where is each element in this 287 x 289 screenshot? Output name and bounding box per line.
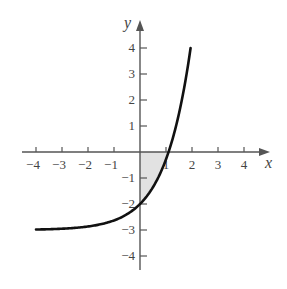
y-tick-label: 2 <box>129 92 136 107</box>
x-tick-label: 3 <box>215 157 222 172</box>
y-tick-label: 3 <box>129 66 136 81</box>
x-tick-label: −1 <box>104 157 118 172</box>
x-tick-label: −4 <box>26 157 40 172</box>
x-tick-label: −3 <box>52 157 66 172</box>
x-axis-label: x <box>264 154 272 171</box>
x-tick-label: −2 <box>78 157 92 172</box>
function-curve <box>36 48 191 230</box>
x-tick-label: 4 <box>241 157 248 172</box>
y-tick-label: 1 <box>129 118 136 133</box>
graph: −4−3−2−112344321−1−2−3−4xy <box>0 0 287 289</box>
y-axis-label: y <box>122 14 132 32</box>
x-tick-label: 2 <box>189 157 196 172</box>
y-tick-label: −1 <box>121 170 135 185</box>
y-tick-label: −3 <box>121 222 135 237</box>
y-tick-label: 4 <box>129 40 136 55</box>
y-axis-arrow-icon <box>136 20 144 31</box>
y-tick-label: −4 <box>121 248 135 263</box>
